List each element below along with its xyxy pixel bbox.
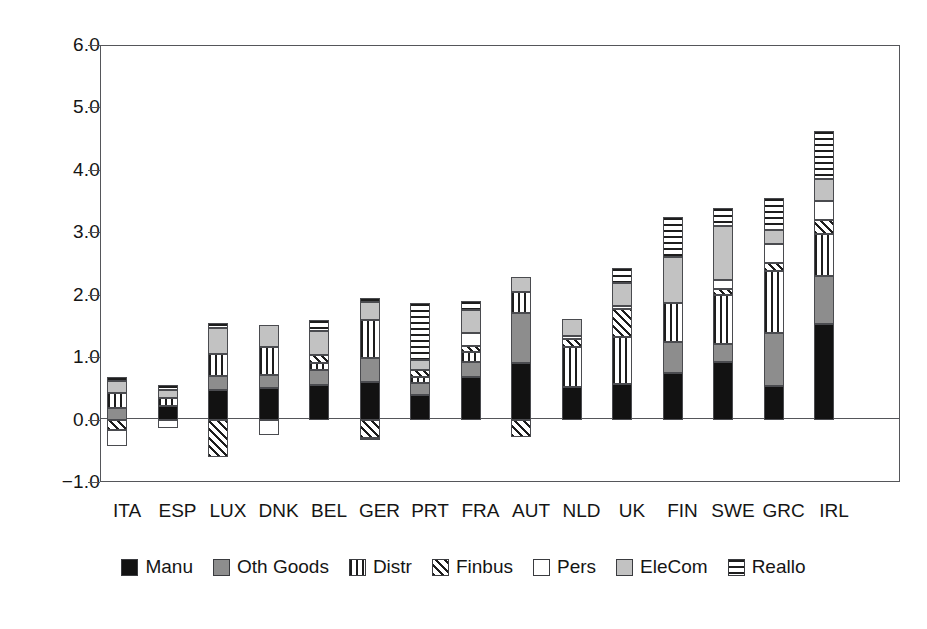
bar-segment-reallo (764, 198, 784, 230)
bar-segment-elecom (208, 328, 228, 354)
bar-segment-finbus (461, 346, 481, 352)
bar-irl[interactable] (814, 0, 834, 500)
bar-segment-manu (562, 387, 582, 419)
bar-segment-manu (663, 373, 683, 419)
legend-label: Reallo (752, 556, 806, 578)
bar-bel[interactable] (309, 0, 329, 500)
bar-segment-manu (360, 382, 380, 419)
bar-segment-elecom (663, 257, 683, 303)
bar-segment-elecom (158, 390, 178, 398)
bar-segment-distr (107, 393, 127, 407)
legend-item-elecom[interactable]: EleCom (616, 556, 708, 578)
bar-segment-oth-goods (259, 375, 279, 388)
bar-segment-finbus (814, 220, 834, 233)
bar-segment-reallo (309, 320, 329, 331)
bar-segment-distr (309, 363, 329, 370)
bar-segment-pers (764, 244, 784, 263)
solid-gray-swatch (213, 559, 230, 576)
bar-segment-elecom (764, 230, 784, 244)
bar-ita[interactable] (107, 0, 127, 500)
bar-segment-distr (158, 398, 178, 407)
bar-fra[interactable] (461, 0, 481, 500)
diagonal-hatch-swatch (432, 559, 449, 576)
bar-aut[interactable] (511, 0, 531, 500)
bar-segment-reallo (107, 377, 127, 381)
bar-segment-manu (158, 406, 178, 419)
bar-segment-manu (713, 362, 733, 419)
stacked-bar-chart: 6.05.04.03.02.01.00.0−1.0 ITAESPLUXDNKBE… (0, 0, 927, 629)
y-tick-mark (88, 232, 100, 233)
legend-label: Oth Goods (237, 556, 329, 578)
vertical-stripe-swatch (349, 559, 366, 576)
bar-segment-manu (259, 388, 279, 420)
white-swatch (533, 559, 550, 576)
bar-segment-pers (461, 333, 481, 346)
bar-segment-pers (107, 430, 127, 446)
bar-dnk[interactable] (259, 0, 279, 500)
bar-segment-manu (612, 384, 632, 420)
bar-segment-reallo (814, 131, 834, 179)
bar-segment-elecom (562, 319, 582, 336)
bar-segment-oth-goods (107, 408, 127, 420)
bar-segment-elecom (259, 325, 279, 347)
legend-item-pers[interactable]: Pers (533, 556, 596, 578)
bar-segment-distr (764, 271, 784, 333)
bar-segment-finbus (511, 420, 531, 437)
legend-item-manu[interactable]: Manu (121, 556, 193, 578)
legend-label: Distr (373, 556, 412, 578)
bar-segment-finbus (208, 420, 228, 457)
horizontal-stripe-swatch (728, 559, 745, 576)
bar-segment-manu (410, 395, 430, 420)
bar-segment-distr (410, 377, 430, 383)
bar-ger[interactable] (360, 0, 380, 500)
bar-segment-distr (511, 292, 531, 314)
bar-segment-elecom (461, 310, 481, 332)
y-tick-mark (88, 107, 100, 108)
bar-segment-oth-goods (713, 344, 733, 362)
bar-segment-distr (360, 320, 380, 357)
bar-segment-oth-goods (208, 376, 228, 390)
bar-segment-distr (663, 303, 683, 342)
bar-segment-reallo (663, 217, 683, 258)
legend-item-finbus[interactable]: Finbus (432, 556, 513, 578)
bar-segment-elecom (511, 277, 531, 291)
bar-segment-reallo (612, 268, 632, 283)
legend-label: Finbus (456, 556, 513, 578)
bar-segment-pers (259, 420, 279, 436)
y-tick-mark (88, 420, 100, 421)
bar-grc[interactable] (764, 0, 784, 500)
legend-item-reallo[interactable]: Reallo (728, 556, 806, 578)
bar-segment-reallo (158, 385, 178, 390)
bar-segment-reallo (461, 301, 481, 310)
bar-segment-oth-goods (461, 362, 481, 378)
bar-segment-manu (814, 324, 834, 420)
bar-segment-pers (158, 420, 178, 429)
bar-segment-reallo (208, 323, 228, 329)
bar-segment-finbus (612, 309, 632, 336)
bar-segment-oth-goods (309, 370, 329, 384)
bar-nld[interactable] (562, 0, 582, 500)
bar-prt[interactable] (410, 0, 430, 500)
bar-segment-distr (713, 295, 733, 344)
bar-fin[interactable] (663, 0, 683, 500)
bar-segment-manu (208, 390, 228, 420)
chart-legend: ManuOth GoodsDistrFinbusPersEleComReallo (0, 556, 927, 578)
bar-swe[interactable] (713, 0, 733, 500)
legend-item-oth-goods[interactable]: Oth Goods (213, 556, 329, 578)
bar-segment-elecom (713, 226, 733, 280)
light-gray-swatch (616, 559, 633, 576)
bar-segment-oth-goods (764, 333, 784, 387)
legend-item-distr[interactable]: Distr (349, 556, 412, 578)
bar-segment-manu (461, 377, 481, 419)
bar-segment-oth-goods (410, 383, 430, 395)
bar-segment-elecom (309, 331, 329, 355)
bar-segment-finbus (107, 420, 127, 431)
bar-esp[interactable] (158, 0, 178, 500)
bar-segment-reallo (410, 303, 430, 360)
bar-uk[interactable] (612, 0, 632, 500)
legend-label: Manu (145, 556, 193, 578)
bar-segment-pers (360, 438, 380, 440)
bar-lux[interactable] (208, 0, 228, 500)
bar-segment-reallo (713, 208, 733, 226)
bar-segment-pers (814, 201, 834, 220)
